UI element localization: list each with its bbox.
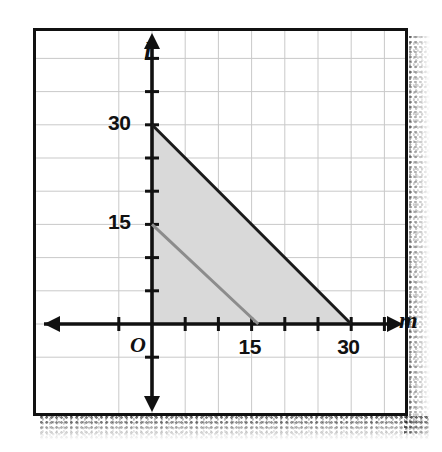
y-tick-label-15: 15 (108, 210, 130, 234)
x-tick-label-30: 30 (337, 335, 359, 359)
y-tick-label-30: 30 (108, 111, 130, 135)
y-axis-label: l (144, 37, 151, 67)
x-axis-label: m (399, 307, 418, 334)
x-tick-label-15: 15 (239, 335, 261, 359)
origin-label: O (130, 332, 146, 358)
figure-frame: 30 15 15 30 O m l (33, 28, 408, 416)
page-shadow-bottom (40, 416, 430, 440)
figure-stage: 30 15 15 30 O m l (0, 0, 442, 452)
